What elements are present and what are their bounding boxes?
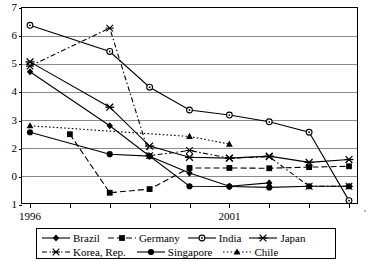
data-point-filled-diamond xyxy=(107,122,113,129)
data-point-filled-square xyxy=(119,235,125,241)
data-point-x-cross xyxy=(345,156,354,163)
legend-swatch-open-circle xyxy=(187,232,217,244)
x-axis: 19962001 xyxy=(21,204,358,228)
x-tick-label: 1996 xyxy=(19,210,41,222)
legend-row: Korea, Rep.SingaporeChile xyxy=(41,245,331,259)
data-point-open-circle xyxy=(107,49,113,55)
data-point-asterisk xyxy=(106,25,114,32)
data-point-filled-square xyxy=(147,186,153,192)
legend-item-singapore[interactable]: Singapore xyxy=(136,246,213,258)
data-point-asterisk xyxy=(225,155,233,162)
data-point-open-circle xyxy=(27,22,33,28)
data-point-open-circle xyxy=(147,84,153,90)
x-tick-mark xyxy=(349,204,350,208)
data-point-filled-circle xyxy=(186,183,192,189)
data-point-filled-square xyxy=(346,163,352,169)
data-point-filled-circle xyxy=(147,153,153,159)
legend-item-india[interactable]: India xyxy=(187,232,242,244)
data-point-asterisk xyxy=(265,153,273,160)
data-point-filled-triangle xyxy=(27,122,34,128)
legend-swatch-filled-square xyxy=(107,232,137,244)
data-point-filled-square xyxy=(266,165,272,171)
y-tick-label: 1 xyxy=(12,199,18,210)
data-point-filled-triangle xyxy=(186,133,193,139)
data-point-open-circle xyxy=(266,119,272,125)
data-point-filled-circle xyxy=(266,184,272,190)
data-point-asterisk xyxy=(52,249,60,256)
legend-item-korea-rep[interactable]: Korea, Rep. xyxy=(41,246,126,258)
x-tick-mark xyxy=(229,204,230,208)
y-tick-label: 6 xyxy=(12,30,18,41)
scan-speck xyxy=(364,210,366,212)
data-point-open-circle xyxy=(199,235,205,241)
x-tick-mark xyxy=(110,204,111,208)
y-tick-label: 0 xyxy=(12,170,18,181)
y-tick-label: 3 xyxy=(12,114,18,125)
legend-swatch-filled-circle xyxy=(136,246,166,258)
series-line xyxy=(30,132,349,187)
data-point-filled-diamond xyxy=(27,68,33,75)
data-point-filled-square xyxy=(67,131,73,137)
chart-container: 76543201 19962001 BrazilGermanyIndiaJapa… xyxy=(0,0,371,261)
legend-label: Brazil xyxy=(73,232,100,244)
x-tick-mark xyxy=(190,204,191,208)
chart-legend: BrazilGermanyIndiaJapan Korea, Rep.Singa… xyxy=(36,228,336,259)
data-point-filled-circle xyxy=(226,183,232,189)
data-point-filled-circle xyxy=(306,183,312,189)
legend-item-japan[interactable]: Japan xyxy=(248,232,305,244)
legend-label: Germany xyxy=(139,232,180,244)
data-point-x-cross xyxy=(105,104,114,111)
legend-swatch-asterisk xyxy=(41,246,71,258)
data-point-open-circle xyxy=(187,107,193,113)
legend-label: Japan xyxy=(280,232,305,244)
data-point-filled-circle xyxy=(27,129,33,135)
data-point-open-circle xyxy=(306,129,312,135)
data-point-open-circle xyxy=(346,198,352,204)
data-point-filled-square xyxy=(187,165,193,171)
data-point-filled-circle xyxy=(148,249,154,255)
legend-item-chile[interactable]: Chile xyxy=(222,246,278,258)
data-point-filled-circle xyxy=(107,151,113,157)
x-tick-mark xyxy=(30,204,31,208)
x-tick-mark xyxy=(269,204,270,208)
legend-label: India xyxy=(219,232,242,244)
legend-label: Chile xyxy=(254,246,278,258)
y-tick-label: 7 xyxy=(12,2,18,13)
legend-label: Korea, Rep. xyxy=(73,246,126,258)
y-tick-label: 4 xyxy=(12,86,18,97)
legend-swatch-x-cross xyxy=(248,232,278,244)
x-tick-mark xyxy=(150,204,151,208)
data-point-asterisk xyxy=(186,147,194,154)
legend-row: BrazilGermanyIndiaJapan xyxy=(41,231,331,245)
data-point-open-circle xyxy=(226,112,232,118)
legend-item-brazil[interactable]: Brazil xyxy=(41,232,100,244)
series-chile xyxy=(27,122,233,146)
legend-swatch-filled-triangle xyxy=(222,246,252,258)
y-tick-label: 2 xyxy=(12,142,18,153)
x-tick-mark xyxy=(309,204,310,208)
y-axis-labels: 76543201 xyxy=(0,0,21,211)
legend-swatch-filled-diamond xyxy=(41,232,71,244)
data-point-filled-diamond xyxy=(53,234,59,241)
series-layer xyxy=(21,7,358,204)
x-tick-label: 2001 xyxy=(218,210,240,222)
x-tick-mark xyxy=(70,204,71,208)
data-point-filled-square xyxy=(107,190,113,196)
legend-label: Singapore xyxy=(168,246,213,258)
legend-item-germany[interactable]: Germany xyxy=(107,232,180,244)
data-point-x-cross xyxy=(185,154,194,161)
data-point-filled-circle xyxy=(346,183,352,189)
y-tick-label: 5 xyxy=(12,58,18,69)
data-point-filled-square xyxy=(226,165,232,171)
data-point-x-cross xyxy=(259,235,268,242)
